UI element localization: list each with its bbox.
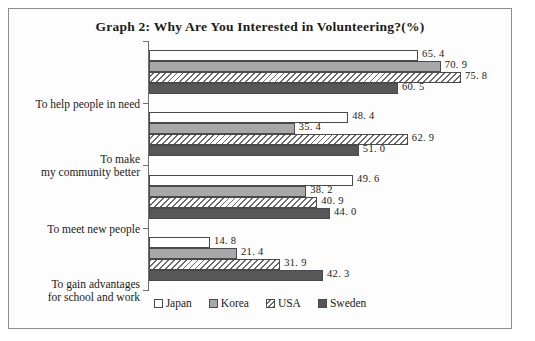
bar-row: 40. 9 xyxy=(149,197,500,208)
axis-tick xyxy=(143,103,149,104)
axis-tick xyxy=(143,165,149,166)
category-label: To meet new people xyxy=(12,223,140,236)
bar-row: 60. 5 xyxy=(149,83,500,94)
bar-usa[interactable] xyxy=(149,197,317,208)
bar-value-label: 62. 9 xyxy=(412,132,435,143)
bar-usa[interactable] xyxy=(149,259,280,270)
bar-value-label: 75. 8 xyxy=(465,70,488,81)
bar-row: 51. 0 xyxy=(149,145,500,156)
axis-tick xyxy=(143,290,149,291)
bar-value-label: 31. 9 xyxy=(284,257,307,268)
bar-row: 21. 4 xyxy=(149,248,500,259)
plot-area: 65. 470. 975. 860. 548. 435. 462. 951. 0… xyxy=(140,41,500,291)
bar-value-label: 35. 4 xyxy=(299,121,322,132)
category-label: To make my community better xyxy=(12,153,140,179)
legend-label: Sweden xyxy=(330,297,366,309)
bar-group: 48. 435. 462. 951. 0 xyxy=(149,112,500,156)
bar-value-label: 65. 4 xyxy=(422,48,445,59)
legend-item-usa[interactable]: USA xyxy=(266,297,301,309)
legend-label: USA xyxy=(278,297,301,309)
bar-value-label: 42. 3 xyxy=(327,268,350,279)
legend-item-korea[interactable]: Korea xyxy=(209,297,249,309)
bar-korea[interactable] xyxy=(149,61,441,72)
bar-row: 42. 3 xyxy=(149,270,500,281)
bar-row: 14. 8 xyxy=(149,237,500,248)
bar-group: 14. 821. 431. 942. 3 xyxy=(149,237,500,281)
bar-row: 62. 9 xyxy=(149,134,500,145)
legend-item-japan[interactable]: Japan xyxy=(154,297,192,309)
chart-title: Graph 2: Why Are You Interested in Volun… xyxy=(9,19,511,35)
bar-japan[interactable] xyxy=(149,237,210,248)
axis-tick xyxy=(143,41,149,42)
bar-korea[interactable] xyxy=(149,248,237,259)
bar-value-label: 14. 8 xyxy=(214,235,237,246)
bar-sweden[interactable] xyxy=(149,83,398,94)
legend-swatch-sweden-icon xyxy=(318,299,327,308)
legend-swatch-japan-icon xyxy=(154,299,163,308)
bar-group: 49. 638. 240. 944. 0 xyxy=(149,175,500,219)
bar-row: 75. 8 xyxy=(149,72,500,83)
bar-row: 70. 9 xyxy=(149,61,500,72)
bar-value-label: 38. 2 xyxy=(310,184,333,195)
bar-value-label: 44. 0 xyxy=(334,206,357,217)
chart-legend: JapanKoreaUSASweden xyxy=(9,297,511,309)
bar-value-label: 48. 4 xyxy=(352,110,375,121)
bar-row: 44. 0 xyxy=(149,208,500,219)
legend-label: Japan xyxy=(166,297,192,309)
bar-row: 48. 4 xyxy=(149,112,500,123)
bar-korea[interactable] xyxy=(149,123,295,134)
bar-value-label: 51. 0 xyxy=(363,143,386,154)
legend-swatch-usa-icon xyxy=(266,299,275,308)
bar-korea[interactable] xyxy=(149,186,306,197)
bar-sweden[interactable] xyxy=(149,208,330,219)
figure-frame: Graph 2: Why Are You Interested in Volun… xyxy=(8,8,512,329)
category-label: To help people in need xyxy=(12,98,140,111)
legend-label: Korea xyxy=(221,297,249,309)
bar-japan[interactable] xyxy=(149,50,418,61)
axis-tick xyxy=(143,228,149,229)
bar-row: 35. 4 xyxy=(149,123,500,134)
bar-value-label: 60. 5 xyxy=(402,81,425,92)
bar-value-label: 70. 9 xyxy=(445,59,468,70)
bar-row: 31. 9 xyxy=(149,259,500,270)
bar-value-label: 21. 4 xyxy=(241,246,264,257)
legend-item-sweden[interactable]: Sweden xyxy=(318,297,366,309)
bar-group: 65. 470. 975. 860. 5 xyxy=(149,50,500,94)
bar-value-label: 40. 9 xyxy=(321,195,344,206)
bar-value-label: 49. 6 xyxy=(357,173,380,184)
bar-sweden[interactable] xyxy=(149,270,323,281)
bar-sweden[interactable] xyxy=(149,145,359,156)
legend-swatch-korea-icon xyxy=(209,299,218,308)
category-axis-labels: To help people in needTo make my communi… xyxy=(9,41,140,291)
